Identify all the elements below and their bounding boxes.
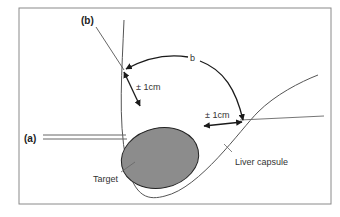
liver-capsule-label: Liver capsule [235,157,288,167]
angle-label: b [190,53,195,63]
capsule-leader-line [224,144,232,152]
margin-top-label: ± 1cm [136,82,160,92]
target-label: Target [93,174,119,184]
target-lesion [116,121,205,196]
margin-right-label: ± 1cm [205,110,229,120]
probe-b-line [96,27,124,70]
probe-b-label: (b) [81,15,94,26]
angle-arc-left [126,56,188,69]
margin-arrow-right [204,122,242,126]
probe-a-label: (a) [24,133,36,144]
liver-targeting-diagram: (b) (a) b ± 1cm ± 1cm Target Liver capsu… [0,0,340,217]
